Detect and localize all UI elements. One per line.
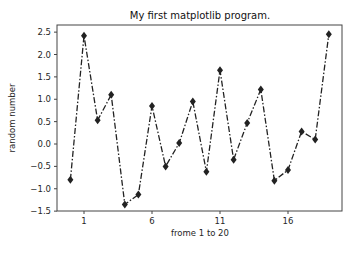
data-point-marker [217, 66, 223, 74]
x-tick-label: 6 [149, 216, 154, 226]
y-tick-label: 2.0 [37, 50, 51, 60]
data-point-marker [135, 191, 141, 199]
chart: My first matplotlib program. −1.5−1.0−0.… [0, 0, 359, 253]
chart-title: My first matplotlib program. [130, 10, 270, 21]
data-point-marker [149, 102, 155, 110]
y-axis-label: random number [7, 83, 17, 152]
data-point-marker [67, 176, 73, 184]
data-line [70, 34, 328, 204]
data-point-marker [312, 136, 318, 144]
data-point-marker [81, 32, 87, 40]
data-point-marker [122, 200, 128, 208]
data-point-marker [203, 168, 209, 176]
data-point-marker [231, 156, 237, 164]
x-tick-label: 16 [283, 216, 294, 226]
data-point-marker [326, 30, 332, 38]
y-tick-label: 0.5 [37, 117, 51, 127]
axes-frame [57, 25, 342, 211]
data-point-marker [271, 177, 277, 185]
data-point-marker [244, 119, 250, 127]
data-point-marker [299, 127, 305, 135]
y-tick-label: 1.5 [37, 72, 51, 82]
y-tick-label: 2.5 [37, 27, 51, 37]
x-tick-label: 1 [81, 216, 86, 226]
y-tick-label: 1.0 [37, 94, 51, 104]
y-tick-label: −1.0 [30, 184, 51, 194]
x-axis-label: frome 1 to 20 [171, 228, 229, 238]
plot-area [67, 30, 331, 208]
y-axis: −1.5−1.0−0.50.00.51.01.52.02.5 [30, 27, 57, 216]
data-point-marker [258, 85, 264, 93]
y-tick-label: 0.0 [37, 139, 51, 149]
data-point-marker [176, 139, 182, 147]
y-tick-label: −1.5 [30, 206, 51, 216]
y-tick-label: −0.5 [30, 161, 51, 171]
data-point-marker [190, 97, 196, 105]
x-axis: 161116 [81, 211, 293, 226]
data-point-marker [285, 166, 291, 174]
x-tick-label: 11 [215, 216, 226, 226]
